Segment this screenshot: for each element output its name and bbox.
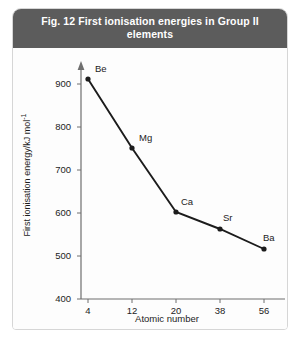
figure-title-bar: Fig. 12 First ionisation energies in Gro…	[12, 8, 288, 48]
x-tick-marks	[88, 299, 264, 303]
point-label-sr: Sr	[223, 212, 233, 223]
y-tick-label-400: 400	[37, 293, 71, 304]
y-axis-title: First ionisation energy/kJ mol-1	[20, 70, 32, 280]
chart-plot-area: 900 800 700 600 500 400 4 12 20 38 56 Be…	[13, 49, 287, 329]
y-tick-label-700: 700	[37, 164, 71, 175]
data-point-mg	[129, 145, 134, 150]
data-line	[88, 79, 264, 249]
y-tick-label-800: 800	[37, 121, 71, 132]
chart-svg	[13, 49, 287, 329]
figure-title: Fig. 12 First ionisation energies in Gro…	[26, 15, 274, 41]
data-point-be	[85, 76, 90, 81]
point-label-ba: Ba	[263, 232, 275, 243]
data-point-ba	[261, 246, 266, 251]
y-axis	[78, 61, 85, 299]
figure-card: Fig. 12 First ionisation energies in Gro…	[12, 8, 288, 330]
y-tick-label-500: 500	[37, 250, 71, 261]
data-point-ca	[173, 209, 178, 214]
y-axis-title-exponent: -1	[20, 114, 27, 120]
data-markers	[85, 76, 266, 251]
data-point-sr	[217, 226, 222, 231]
x-axis-title: Atomic number	[57, 313, 277, 324]
y-tick-label-600: 600	[37, 207, 71, 218]
point-label-mg: Mg	[139, 132, 152, 143]
point-label-ca: Ca	[181, 196, 193, 207]
point-label-be: Be	[95, 63, 107, 74]
y-axis-title-text: First ionisation energy/kJ mol	[22, 120, 32, 237]
y-tick-label-900: 900	[37, 78, 71, 89]
